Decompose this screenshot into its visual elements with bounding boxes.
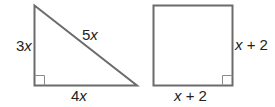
- triangle-right-angle-marker: [35, 76, 45, 86]
- square: [154, 6, 233, 86]
- label-square-bottom-side: x + 2: [173, 87, 207, 104]
- label-4x: 4x: [71, 87, 87, 104]
- label-square-right-side: x + 2: [234, 36, 268, 53]
- square-right-angle-marker: [223, 76, 233, 86]
- label-5x: 5x: [82, 26, 98, 43]
- right-triangle: [35, 6, 138, 86]
- label-3x: 3x: [16, 37, 32, 54]
- diagram-canvas: 3x 5x 4x x + 2 x + 2: [0, 0, 275, 107]
